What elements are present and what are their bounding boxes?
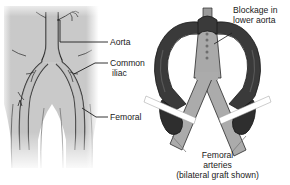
label-femoral: Femoral (110, 112, 142, 122)
caption-line2: arteries (145, 160, 290, 170)
panel-bypass-graft (144, 8, 271, 156)
caption-femoral-arteries: Femoral arteries (bilateral graft shown) (145, 150, 290, 181)
label-common-iliac-line2: iliac (110, 68, 145, 78)
label-common-iliac: Common iliac (110, 58, 145, 78)
label-blockage-line2: lower aorta (233, 15, 277, 25)
label-common-iliac-line1: Common (110, 58, 145, 68)
caption-line1: Femoral (145, 150, 290, 160)
label-blockage-line1: Blockage in (233, 5, 277, 15)
medical-illustration-figure: Aorta Common iliac Femoral Blockage in l… (0, 0, 290, 185)
label-blockage: Blockage in lower aorta (233, 5, 277, 25)
caption-line3: (bilateral graft shown) (145, 170, 290, 180)
panel-normal-anatomy (0, 0, 104, 185)
label-aorta: Aorta (110, 37, 131, 47)
